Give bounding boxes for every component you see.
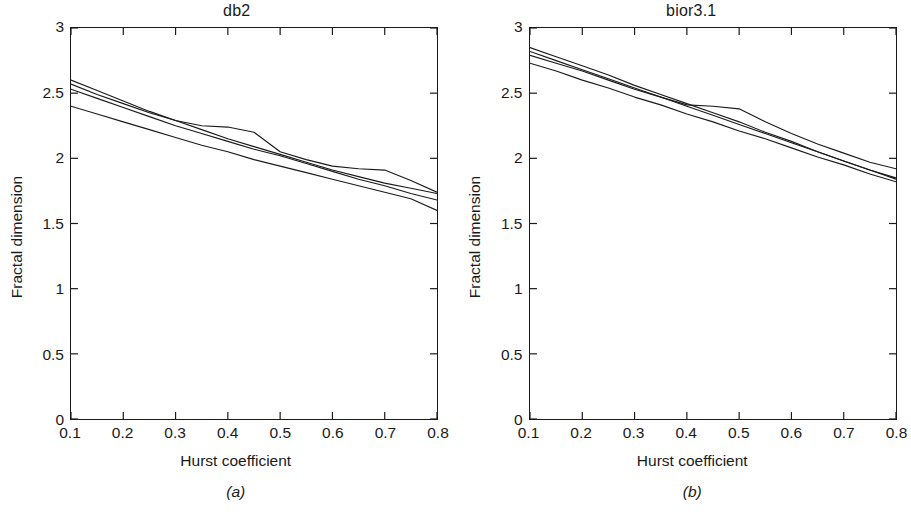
panel-b-xtick-label: 0.6	[781, 424, 803, 442]
panel-a-ytick-label: 0.5	[42, 346, 64, 364]
panel-b-xtick-label: 0.4	[675, 424, 697, 442]
panel-a-subcaption: (a)	[0, 483, 456, 501]
panel-b-ytick-label: 0.5	[501, 346, 523, 364]
figure-container: db2 Fractal dimension 00.511.522.53 0.10…	[0, 0, 911, 517]
panel-a-xtick-label: 0.8	[427, 424, 449, 442]
panel-b-xtick-labels: 0.10.20.30.40.50.60.70.8	[529, 424, 897, 448]
panel-a-ytick-label: 1	[55, 280, 64, 298]
panel-a-plot-svg	[71, 28, 437, 419]
panel-a-curve-3	[71, 89, 437, 200]
panel-b-ytick-label: 1.5	[501, 215, 523, 233]
panel-a-curve-4	[71, 106, 437, 210]
panel-b-ylabel-text: Fractal dimension	[467, 175, 485, 297]
panel-b-xtick-label: 0.5	[728, 424, 750, 442]
panel-a-ylabel-text: Fractal dimension	[8, 175, 26, 297]
panel-a-xtick-label: 0.7	[375, 424, 397, 442]
panel-a-curve-2	[71, 84, 437, 192]
panel-a-title: db2	[0, 2, 456, 20]
panel-b-ytick-label: 2	[514, 149, 523, 167]
panel-b-plot-svg	[530, 28, 896, 419]
panel-a-xtick-label: 0.1	[59, 424, 81, 442]
panel-a-ytick-label: 1.5	[42, 215, 64, 233]
panel-a-ytick-labels: 00.511.522.53	[28, 27, 64, 420]
panel-b-xtick-label: 0.2	[570, 424, 592, 442]
panel-b-curve-3	[530, 55, 896, 168]
panel-b-xtick-label: 0.1	[518, 424, 540, 442]
panel-b: bior3.1 Fractal dimension 00.511.522.53 …	[456, 0, 911, 517]
panel-b-ytick-label: 2.5	[501, 84, 523, 102]
panel-a-ytick-label: 3	[55, 18, 64, 36]
panel-b-ytick-label: 3	[514, 18, 523, 36]
panel-a-xtick-label: 0.3	[164, 424, 186, 442]
panel-b-curve-4	[530, 63, 896, 182]
panel-b-plot-area	[529, 27, 897, 420]
panel-b-ytick-labels: 00.511.522.53	[487, 27, 523, 420]
panel-b-title: bior3.1	[456, 2, 911, 20]
panel-a-xtick-label: 0.2	[112, 424, 134, 442]
panel-a-ytick-label: 2	[55, 149, 64, 167]
panel-a-xtick-labels: 0.10.20.30.40.50.60.70.8	[70, 424, 438, 448]
panel-b-ytick-label: 1	[514, 280, 523, 298]
panel-b-xtick-label: 0.7	[833, 424, 855, 442]
panel-b-xtick-label: 0.8	[886, 424, 908, 442]
panel-b-xtick-label: 0.3	[623, 424, 645, 442]
panel-a-xtick-label: 0.6	[322, 424, 344, 442]
panel-b-ylabel: Fractal dimension	[465, 40, 487, 433]
panel-b-curve-2	[530, 51, 896, 177]
panel-a-curve-1	[71, 80, 437, 193]
panel-a-plot-area	[70, 27, 438, 420]
panel-a-xtick-label: 0.4	[217, 424, 239, 442]
panel-a-xtick-label: 0.5	[270, 424, 292, 442]
panel-a-ytick-label: 2.5	[42, 84, 64, 102]
panel-a-ylabel: Fractal dimension	[6, 40, 28, 433]
panel-a-xlabel: Hurst coefficient	[0, 452, 456, 470]
panel-a: db2 Fractal dimension 00.511.522.53 0.10…	[0, 0, 456, 517]
panel-b-subcaption: (b)	[456, 483, 911, 501]
panel-b-xlabel: Hurst coefficient	[456, 452, 911, 470]
